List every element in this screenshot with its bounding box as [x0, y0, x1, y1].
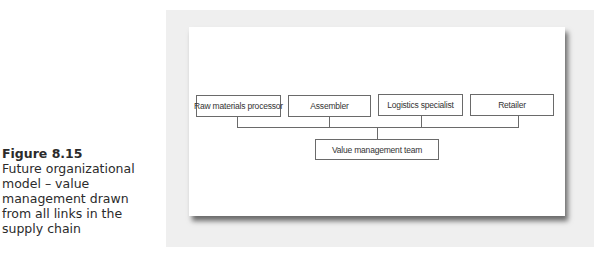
- node-retailer: Retailer: [470, 94, 554, 116]
- node-logistics-specialist: Logistics specialist: [378, 94, 463, 116]
- figure-number: Figure 8.15: [2, 146, 152, 161]
- figure-caption: Figure 8.15 Future organizational model …: [2, 146, 152, 236]
- figure-caption-text: Future organizational model – value mana…: [2, 161, 152, 236]
- node-label: Logistics specialist: [387, 100, 453, 110]
- connector-raw-materials: [237, 116, 238, 128]
- connector-assembler: [329, 116, 330, 128]
- node-value-management-team: Value management team: [315, 139, 439, 160]
- connector-stem: [377, 127, 378, 139]
- diagram-panel: [189, 27, 565, 216]
- node-label: Raw materials processor: [194, 101, 283, 111]
- node-label: Assembler: [310, 101, 348, 111]
- node-raw-materials-processor: Raw materials processor: [196, 95, 281, 117]
- connector-logistics: [421, 115, 422, 128]
- connector-retailer: [518, 115, 519, 128]
- connector-horizontal: [237, 127, 519, 128]
- node-label: Value management team: [332, 145, 422, 155]
- node-assembler: Assembler: [288, 95, 371, 117]
- node-label: Retailer: [498, 100, 526, 110]
